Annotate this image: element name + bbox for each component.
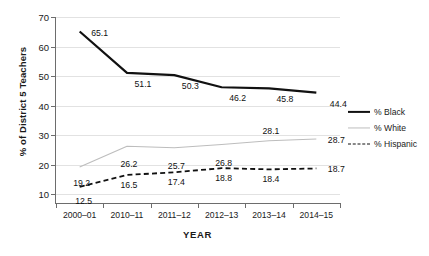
x-axis-tick — [293, 203, 294, 208]
data-point-label: 50.3 — [182, 81, 199, 91]
data-point-label: 28.1 — [263, 126, 280, 136]
y-axis-tick-label: 40 — [38, 100, 49, 111]
series-lines — [56, 17, 340, 203]
data-point-label: 16.5 — [121, 180, 138, 190]
data-point-label: 45.8 — [277, 94, 294, 104]
x-axis-tick — [151, 203, 152, 208]
legend-swatch-icon — [348, 123, 370, 133]
data-point-label: 18.8 — [215, 173, 232, 183]
x-axis-tick — [245, 203, 246, 208]
y-axis-tick-label: 50 — [38, 71, 49, 82]
y-axis-tick-label: 10 — [38, 189, 49, 200]
legend-swatch-icon — [348, 107, 370, 117]
y-axis-tick-label: 60 — [38, 41, 49, 52]
x-axis-tick-label: 2011–12 — [158, 210, 191, 220]
x-axis-title: YEAR — [55, 229, 340, 240]
data-point-label: 12.5 — [75, 196, 92, 206]
legend-item-label: % Black — [374, 107, 405, 117]
x-axis-tick-label: 2000–01 — [63, 210, 96, 220]
line-chart: % of District 5 Teachers 10203040506070 … — [0, 0, 429, 256]
data-point-label: 26.8 — [215, 158, 232, 168]
data-point-label: 17.4 — [168, 177, 185, 187]
data-point-label: 51.1 — [135, 79, 152, 89]
legend-item-label: % Hispanic — [374, 139, 417, 149]
legend-item-label: % White — [374, 123, 406, 133]
y-axis-tick-label: 20 — [38, 159, 49, 170]
data-point-label: 65.1 — [91, 28, 108, 38]
series-line — [80, 139, 317, 167]
y-axis-tick-label: 30 — [38, 130, 49, 141]
legend: % Black% White% Hispanic — [348, 104, 417, 152]
plot-area: 10203040506070 2000–012010–112011–122012… — [56, 17, 340, 203]
legend-item[interactable]: % Black — [348, 104, 417, 120]
data-point-label: 25.7 — [168, 161, 185, 171]
series-line — [80, 168, 317, 187]
x-axis-tick — [340, 203, 341, 208]
x-axis-tick — [103, 203, 104, 208]
x-axis-tick — [198, 203, 199, 208]
x-axis-tick — [56, 203, 57, 208]
data-point-label: 46.2 — [229, 93, 246, 103]
data-point-label: 19.2 — [73, 178, 90, 188]
legend-item[interactable]: % White — [348, 120, 417, 136]
x-axis-tick-label: 2014–15 — [300, 210, 333, 220]
data-point-label: 44.4 — [330, 99, 347, 109]
y-axis-tick-label: 70 — [38, 12, 49, 23]
data-point-label: 26.2 — [121, 159, 138, 169]
x-axis-tick-label: 2013–14 — [252, 210, 285, 220]
legend-item[interactable]: % Hispanic — [348, 136, 417, 152]
x-axis-tick-label: 2010–11 — [111, 210, 144, 220]
data-point-label: 18.4 — [263, 174, 280, 184]
y-axis-title: % of District 5 Teachers — [17, 14, 28, 190]
x-axis-tick-label: 2012–13 — [205, 210, 238, 220]
legend-swatch-icon — [348, 139, 370, 149]
data-point-label: 28.7 — [328, 135, 345, 145]
data-point-label: 18.7 — [328, 164, 345, 174]
